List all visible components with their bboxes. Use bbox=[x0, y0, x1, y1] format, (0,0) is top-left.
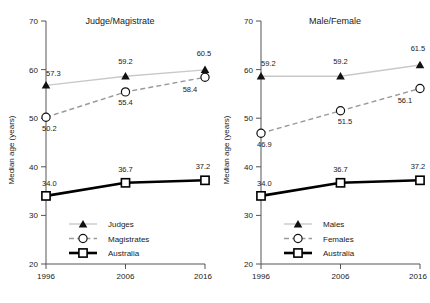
y-tick-label: 30 bbox=[244, 211, 253, 220]
legend-label: Males bbox=[323, 220, 344, 229]
y-tick-label: 70 bbox=[244, 17, 253, 26]
series-australia: 34.0 36.7 37.2 bbox=[257, 162, 425, 200]
y-axis-ticks: 20 30 40 50 60 70 bbox=[29, 17, 46, 269]
data-label: 57.3 bbox=[46, 69, 61, 78]
legend-label: Australia bbox=[323, 249, 355, 258]
chart-panel-judge-magistrate: Judge/Magistrate Median age (years) 20 3… bbox=[0, 0, 215, 303]
y-tick-label: 40 bbox=[244, 163, 253, 172]
legend-label: Magistrates bbox=[108, 235, 149, 244]
x-tick-label: 2016 bbox=[194, 272, 212, 281]
data-label: 56.1 bbox=[398, 96, 413, 105]
series-australia: 34.0 36.7 37.2 bbox=[42, 162, 210, 200]
x-tick-label: 2006 bbox=[332, 272, 350, 281]
chart-svg-left: Judge/Magistrate Median age (years) 20 3… bbox=[0, 0, 215, 303]
chart-panel-male-female: Male/Female Median age (years) 20 30 40 … bbox=[215, 0, 430, 303]
x-tick-label: 1996 bbox=[37, 272, 55, 281]
data-label: 46.9 bbox=[257, 140, 272, 149]
x-tick-label: 1996 bbox=[252, 272, 270, 281]
y-tick-label: 70 bbox=[29, 17, 38, 26]
y-tick-label: 60 bbox=[244, 66, 253, 75]
data-label: 51.5 bbox=[338, 117, 353, 126]
data-label: 50.2 bbox=[42, 124, 57, 133]
data-label: 36.7 bbox=[118, 165, 133, 174]
y-tick-label: 50 bbox=[244, 114, 253, 123]
series-judges: 57.3 59.2 60.5 bbox=[42, 49, 212, 89]
series-magistrates: 50.2 55.4 58.4 bbox=[42, 73, 209, 133]
legend-item-magistrates[interactable]: Magistrates bbox=[69, 234, 149, 243]
y-tick-label: 50 bbox=[29, 114, 38, 123]
panel-title: Judge/Magistrate bbox=[85, 16, 154, 26]
legend: Judges Magistrates Australia bbox=[69, 220, 149, 258]
data-label: 58.4 bbox=[183, 85, 198, 94]
data-label: 55.4 bbox=[118, 98, 133, 107]
y-tick-label: 40 bbox=[29, 163, 38, 172]
chart-svg-right: Male/Female Median age (years) 20 30 40 … bbox=[215, 0, 430, 303]
series-males: 59.2 59.2 61.5 bbox=[257, 44, 426, 79]
y-tick-label: 20 bbox=[244, 260, 253, 269]
y-axis-title: Median age (years) bbox=[222, 115, 231, 184]
legend-item-australia[interactable]: Australia bbox=[69, 249, 140, 258]
legend: Males Females Australia bbox=[284, 220, 355, 258]
data-label: 59.2 bbox=[333, 57, 348, 66]
data-label: 59.2 bbox=[261, 59, 276, 68]
legend-item-males[interactable]: Males bbox=[284, 220, 344, 229]
x-axis-ticks: 1996 2006 2016 bbox=[252, 264, 427, 281]
y-tick-label: 20 bbox=[29, 260, 38, 269]
data-label: 59.2 bbox=[118, 57, 133, 66]
data-label: 61.5 bbox=[411, 44, 426, 53]
legend-item-australia[interactable]: Australia bbox=[284, 249, 355, 258]
x-tick-label: 2006 bbox=[117, 272, 135, 281]
legend-label: Females bbox=[323, 235, 354, 244]
series-females: 46.9 51.5 56.1 bbox=[257, 84, 424, 149]
y-tick-label: 30 bbox=[29, 211, 38, 220]
x-tick-label: 2016 bbox=[409, 272, 427, 281]
x-axis-ticks: 1996 2006 2016 bbox=[37, 264, 212, 281]
legend-label: Australia bbox=[108, 249, 140, 258]
y-axis-title: Median age (years) bbox=[7, 115, 16, 184]
data-label: 37.2 bbox=[196, 162, 211, 171]
panel-title: Male/Female bbox=[309, 16, 361, 26]
data-label: 34.0 bbox=[257, 179, 272, 188]
legend-item-females[interactable]: Females bbox=[284, 234, 354, 243]
data-label: 34.0 bbox=[42, 179, 57, 188]
data-label: 36.7 bbox=[333, 165, 348, 174]
legend-label: Judges bbox=[108, 220, 134, 229]
y-tick-label: 60 bbox=[29, 66, 38, 75]
legend-item-judges[interactable]: Judges bbox=[69, 220, 134, 229]
data-label: 37.2 bbox=[411, 162, 426, 171]
data-label: 60.5 bbox=[197, 49, 212, 58]
figure: Judge/Magistrate Median age (years) 20 3… bbox=[0, 0, 430, 303]
